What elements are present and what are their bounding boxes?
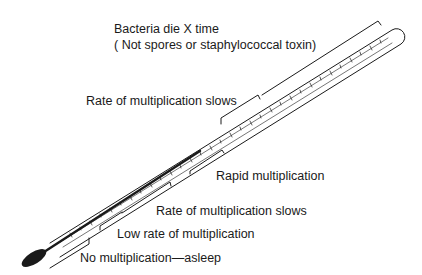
- bracket-die: [262, 21, 381, 95]
- label-rate-slows-high: Rate of multiplication slows: [86, 94, 237, 109]
- label-not-spores: ( Not spores or staphylococcal toxin): [114, 38, 316, 53]
- label-rate-slows-low: Rate of multiplication slows: [156, 204, 307, 219]
- label-rapid-multiplication: Rapid multiplication: [216, 169, 324, 184]
- label-no-multiplication: No multiplication—asleep: [80, 251, 221, 266]
- label-low-rate: Low rate of multiplication: [117, 227, 255, 242]
- label-bacteria-die: Bacteria die X time: [114, 22, 219, 37]
- thermometer-diagram: Bacteria die X time ( Not spores or stap…: [0, 0, 422, 275]
- thermometer-bulb: [19, 245, 49, 270]
- thermometer-tube: [50, 29, 405, 257]
